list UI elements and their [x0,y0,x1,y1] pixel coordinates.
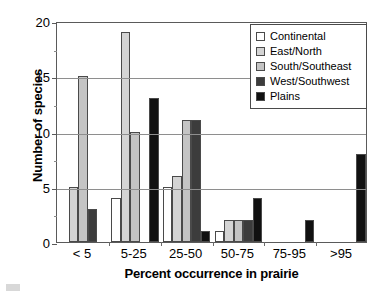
bar [234,220,244,242]
y-tick-minor [54,216,57,217]
legend-label: South/Southeast [270,61,351,72]
x-tick-label: 25-50 [169,246,202,261]
y-tick-major [52,78,57,79]
bar [224,220,234,242]
bar [111,198,121,242]
bar [149,98,159,242]
y-tick-minor [54,106,57,107]
y-tick-label: 20 [18,15,50,30]
bar [130,132,140,243]
legend-item: South/Southeast [256,59,361,74]
y-tick-major [52,23,57,24]
legend-item: West/Southwest [256,74,361,89]
bar [88,209,98,242]
gridline [57,189,366,190]
x-tick-label: 75-95 [273,246,306,261]
y-tick-major [52,134,57,135]
y-tick-label: 5 [18,180,50,195]
legend-swatch-icon [256,47,265,56]
x-tick-label: >95 [330,246,352,261]
bar [191,120,201,242]
y-tick-major [52,189,57,190]
legend-item: Plains [256,89,361,104]
scan-artifact [6,284,20,291]
y-tick-label: 10 [18,125,50,140]
legend-swatch-icon [256,77,265,86]
legend-swatch-icon [256,32,265,41]
y-tick-major [52,244,57,245]
bar [172,176,182,242]
x-tick-label: 5-25 [121,246,147,261]
legend-swatch-icon [256,92,265,101]
legend-item: Continental [256,29,361,44]
legend-item: East/North [256,44,361,59]
y-tick-minor [54,161,57,162]
y-tick-minor [54,51,57,52]
y-tick-label: 15 [18,70,50,85]
bar [78,76,88,242]
gridline [57,134,366,135]
bar [121,32,131,242]
y-tick-label: 0 [18,236,50,251]
bar [243,220,253,242]
bar [69,187,79,242]
legend-label: West/Southwest [270,76,349,87]
bar [163,187,173,242]
y-axis-tick-labels: 05101520 [18,22,50,243]
bar [215,231,225,242]
x-axis-title: Percent occurrence in prairie [56,266,367,281]
bar [253,198,263,242]
x-axis-tick-labels: < 55-2525-5050-7575-95>95 [56,246,367,264]
x-tick-label: 50-75 [221,246,254,261]
bar [201,231,211,242]
x-tick-label: < 5 [73,246,91,261]
bar [305,220,315,242]
legend: ContinentalEast/NorthSouth/SoutheastWest… [250,24,367,109]
legend-label: East/North [270,46,322,57]
bar [356,154,366,242]
bar-chart: Number of species 05101520 < 55-2525-505… [0,0,377,298]
legend-label: Continental [270,31,326,42]
legend-label: Plains [270,91,300,102]
legend-swatch-icon [256,62,265,71]
bar [182,120,192,242]
